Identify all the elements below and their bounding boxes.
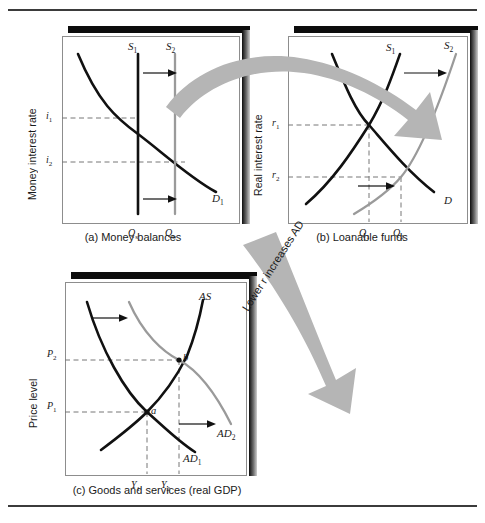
top-divider-rule [8,9,477,11]
panel-goods-and-services: Price level P2 P1 Y1 Y2 AS AD1 AD2 a b [55,272,295,507]
panel-a-curve-d1 [78,54,216,192]
panel-b-graph [246,26,478,251]
panel-money-balances: Money interest rate i1 i2 Qs Qb S1 S2 D1 [20,26,250,251]
panel-c-shift-arrow-top [93,314,128,322]
panel-a-graph [20,26,250,251]
panel-c-shift-arrow-bottom [179,420,216,428]
panel-c-point-b [176,357,181,362]
panel-c-graph [55,272,295,507]
panel-a-caption: (a) Money balances [38,231,228,243]
panel-c-y-axis-label: Price level [27,308,39,428]
panel-b-shift-arrow-top [404,69,447,77]
panel-b-curve-d [332,54,434,192]
panel-c-curve-ad2 [129,302,231,424]
panel-c-curve-as [101,300,203,450]
panel-c-point-a [144,409,149,414]
panel-b-caption: (b) Loanable funds [266,231,458,243]
panel-loanable-funds: Real interest rate r1 r2 Q1 Q2 S1 S2 D [246,26,478,251]
panel-b-curve-s1 [306,54,400,204]
panel-c-caption: (c) Goods and services (real GDP) [47,484,267,496]
economics-figure: Money interest rate i1 i2 Qs Qb S1 S2 D1 [0,0,485,523]
panel-a-shift-arrow-top [143,69,177,77]
panel-a-shift-arrow-bottom [143,195,177,203]
